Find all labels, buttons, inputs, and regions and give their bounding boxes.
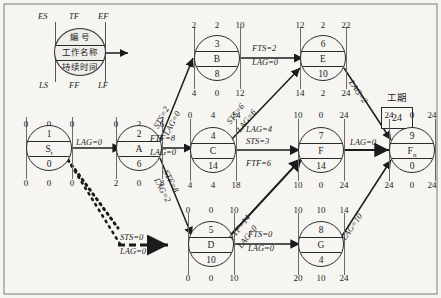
- node-4-tf: 4: [204, 110, 222, 120]
- node-5[interactable]: 5 D 10: [188, 221, 234, 267]
- node-7-ls: 10: [289, 180, 307, 190]
- legend-node-template: 编 号 工作名称 持续时间: [54, 28, 106, 76]
- node-8-ls: 20: [289, 273, 307, 283]
- node-7-ff: 0: [312, 180, 330, 190]
- edge-4-7-label-3: FTF=6: [246, 158, 271, 168]
- edge-7-9-label-1: LAG=0: [350, 137, 376, 147]
- node-1-lf: 0: [63, 178, 81, 188]
- node-4-lf: 18: [227, 180, 245, 190]
- legend-lf: LF: [98, 80, 108, 90]
- node-7-tf: 0: [312, 110, 330, 120]
- node-8-dur: 4: [299, 253, 343, 267]
- node-3-es: 2: [185, 20, 203, 30]
- node-7-name: F: [299, 144, 343, 158]
- node-5-ff: 0: [202, 273, 220, 283]
- node-6-id: 6: [301, 37, 345, 51]
- node-7-ef: 24: [335, 110, 353, 120]
- node-9-ff: 0: [403, 180, 421, 190]
- node-9-tick-right: [435, 119, 436, 181]
- legend-row-name: 工作名称: [55, 45, 105, 60]
- node-4-name: C: [191, 144, 235, 158]
- node-4-ls: 4: [181, 180, 199, 190]
- node-4-dur: 14: [191, 159, 235, 173]
- edge-5-8-label-2: LAG=0: [248, 243, 274, 253]
- node-5-ef: 10: [225, 205, 243, 215]
- edge-5-8-label-1: FTS=0: [248, 229, 272, 239]
- node-8-lf: 24: [335, 273, 353, 283]
- node-9-lf: 24: [423, 180, 441, 190]
- node-7[interactable]: 7 F 14: [298, 127, 344, 173]
- node-3-dur: 8: [195, 67, 239, 81]
- node-8-name: G: [299, 238, 343, 252]
- node-8-ef: 14: [335, 205, 353, 215]
- node-5-ls: 0: [179, 273, 197, 283]
- node-3-ef: 10: [231, 20, 249, 30]
- edge-4-7-label-2: STS=3: [246, 136, 269, 146]
- edge-2-4-label-1: FTF=8: [150, 133, 175, 143]
- node-9-name: Fn: [390, 144, 434, 158]
- node-6-tf: 2: [314, 20, 332, 30]
- node-1-ff: 0: [40, 178, 58, 188]
- node-5-es: 0: [179, 205, 197, 215]
- node-1[interactable]: 1 St 0: [26, 125, 72, 171]
- node-2-dur: 6: [117, 157, 161, 171]
- edge-4-7-label-1: LAG=4: [246, 124, 272, 134]
- node-5-name: D: [189, 238, 233, 252]
- node-6-ff: 2: [314, 88, 332, 98]
- duration-label: 工期: [381, 90, 413, 104]
- node-6-name: E: [301, 52, 345, 66]
- node-5-lf: 10: [225, 273, 243, 283]
- node-6-ef: 22: [337, 20, 355, 30]
- node-6-ls: 14: [291, 88, 309, 98]
- node-6-dur: 10: [301, 67, 345, 81]
- node-7-tick-right: [344, 119, 345, 181]
- node-2-ls: 2: [107, 178, 125, 188]
- diagram-canvas: ES TF EF LS FF LF 编 号 工作名称 持续时间 工期 24 0 …: [0, 0, 441, 298]
- node-9-id: 9: [390, 129, 434, 143]
- node-4[interactable]: 4 C 14: [190, 127, 236, 173]
- node-8[interactable]: 8 G 4: [298, 221, 344, 267]
- node-9[interactable]: 9 Fn 0: [389, 127, 435, 173]
- edge-2-4-label-2: LAG=0: [150, 147, 176, 157]
- node-9-ls: 24: [380, 180, 398, 190]
- node-8-tick-right: [344, 213, 345, 275]
- node-1-id: 1: [27, 127, 71, 141]
- node-3-tick-right: [240, 27, 241, 89]
- node-1-name: St: [27, 142, 71, 156]
- legend-tf: TF: [69, 11, 79, 21]
- node-1-ls: 0: [17, 178, 35, 188]
- legend-ef: EF: [98, 11, 108, 21]
- node-7-es: 10: [289, 110, 307, 120]
- legend-ls: LS: [39, 80, 48, 90]
- edge-1-2-label-1: LAG=0: [76, 137, 102, 147]
- edge-1-5-label-1: STS=0: [120, 232, 143, 242]
- legend: ES TF EF LS FF LF 编 号 工作名称 持续时间: [24, 12, 136, 90]
- node-1-dur: 0: [27, 157, 71, 171]
- legend-es: ES: [38, 11, 47, 21]
- node-9-es: 24: [380, 110, 398, 120]
- node-3[interactable]: 3 B 8: [194, 35, 240, 81]
- node-9-dur: 0: [390, 159, 434, 173]
- node-3-tf: 2: [208, 20, 226, 30]
- legend-row-id: 编 号: [55, 30, 105, 45]
- node-7-lf: 24: [335, 180, 353, 190]
- edge-1-5-label-2: LAG=0: [120, 246, 146, 256]
- node-3-ff: 0: [208, 88, 226, 98]
- edge-3-6-label-1: FTS=2: [252, 43, 276, 53]
- node-3-name: B: [195, 52, 239, 66]
- node-7-dur: 14: [299, 159, 343, 173]
- node-5-tf: 0: [202, 205, 220, 215]
- edge-3-6-label-2: LAG=0: [252, 57, 278, 67]
- node-6[interactable]: 6 E 10: [300, 35, 346, 81]
- node-3-lf: 12: [231, 88, 249, 98]
- node-8-ff: 10: [312, 273, 330, 283]
- node-3-ls: 4: [185, 88, 203, 98]
- legend-ff: FF: [69, 80, 79, 90]
- node-3-id: 3: [195, 37, 239, 51]
- node-4-es: 0: [181, 110, 199, 120]
- legend-row-duration: 持续时间: [55, 60, 105, 75]
- node-6-tick-right: [346, 27, 347, 89]
- node-8-id: 8: [299, 223, 343, 237]
- node-9-tf: 0: [403, 110, 421, 120]
- node-2-ff: 0: [130, 178, 148, 188]
